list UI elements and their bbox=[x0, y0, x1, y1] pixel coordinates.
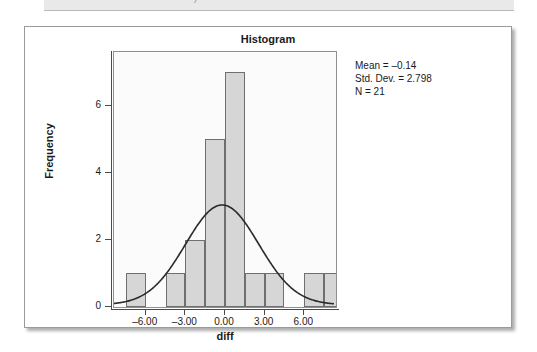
normal-curve-overlay bbox=[114, 52, 336, 307]
y-axis-tick bbox=[105, 239, 111, 240]
x-axis-tick bbox=[264, 310, 265, 315]
stat-mean: Mean = –0.14 bbox=[355, 59, 432, 72]
y-axis-tick bbox=[105, 172, 111, 173]
histogram-figure-card: Histogram 0246 Frequency –6.00–3.000.003… bbox=[24, 26, 512, 328]
x-axis-tick bbox=[224, 310, 225, 315]
x-axis-title: diff bbox=[113, 330, 337, 342]
y-axis-line bbox=[111, 51, 112, 310]
y-axis-tick-label: 6 bbox=[61, 99, 101, 110]
x-axis-tick bbox=[145, 310, 146, 315]
table-fragment-text: ) bbox=[194, 0, 199, 3]
plot-inner bbox=[114, 52, 336, 307]
y-axis-tick-label: 4 bbox=[61, 166, 101, 177]
y-axis-tick-label: 0 bbox=[61, 300, 101, 311]
y-axis-title: Frequency bbox=[43, 91, 55, 211]
x-axis-tick bbox=[184, 310, 185, 315]
chart-title: Histogram bbox=[25, 33, 511, 45]
y-axis-tick bbox=[105, 306, 111, 307]
statistics-annotation: Mean = –0.14 Std. Dev. = 2.798 N = 21 bbox=[355, 59, 432, 98]
y-axis-tick bbox=[105, 105, 111, 106]
stat-n: N = 21 bbox=[355, 85, 432, 98]
plot-area bbox=[113, 51, 337, 308]
stat-std-dev: Std. Dev. = 2.798 bbox=[355, 72, 432, 85]
x-axis-tick bbox=[303, 310, 304, 315]
y-axis-tick-label: 2 bbox=[61, 233, 101, 244]
table-fragment-strip: ) bbox=[44, 0, 514, 11]
x-axis-tick-label: 6.00 bbox=[278, 316, 328, 327]
